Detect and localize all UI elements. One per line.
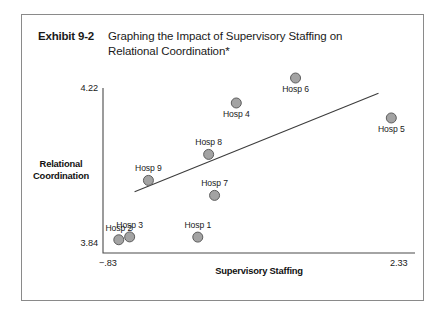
exhibit-frame: Exhibit 9-2 Graphing the Impact of Super… [21, 14, 424, 301]
exhibit-title: Graphing the Impact of Supervisory Staff… [108, 29, 376, 59]
exhibit-number: Exhibit 9-2 [38, 29, 94, 44]
exhibit-header: Exhibit 9-2 Graphing the Impact of Super… [38, 29, 409, 59]
